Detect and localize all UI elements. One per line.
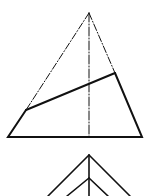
- projection-drawing: [0, 0, 153, 196]
- cutting-plane-edge: [26, 73, 115, 110]
- outer-edge-right: [89, 155, 130, 196]
- lower-figure-top-view: [48, 155, 130, 196]
- upper-figure-front-view: [8, 13, 142, 137]
- inner-edge-right: [89, 178, 108, 196]
- outer-edge-left: [48, 155, 89, 196]
- visible-outline: [8, 73, 142, 137]
- inner-edge-left: [67, 178, 89, 196]
- hidden-edge-left: [26, 13, 89, 110]
- hidden-edge-right: [89, 13, 115, 73]
